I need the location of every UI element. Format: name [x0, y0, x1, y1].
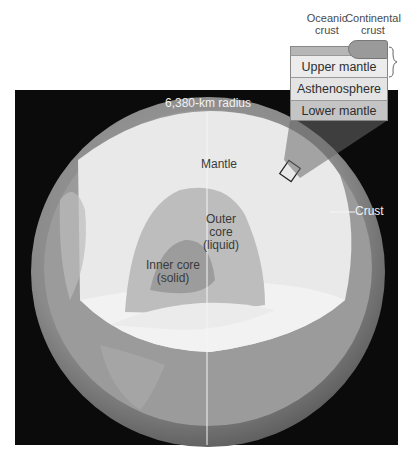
inset-asthenosphere: Asthenosphere	[290, 77, 388, 100]
radius-label: 6,380-km radius	[150, 97, 266, 110]
lithosphere-brace-icon	[388, 46, 398, 78]
continental-crust-label: Continental crust	[338, 12, 408, 36]
inner-core-label: Inner core (solid)	[140, 259, 206, 285]
mantle-label: Mantle	[196, 158, 242, 171]
continental-crust-shape	[348, 40, 388, 59]
crust-mantle-inset: Upper mantle Asthenosphere Lower mantle	[290, 46, 388, 121]
outer-core-label: Outer core (liquid)	[198, 213, 244, 252]
inset-crust-layer	[290, 46, 388, 55]
crust-label: Crust	[355, 205, 395, 218]
inset-lower-mantle: Lower mantle	[290, 100, 388, 121]
